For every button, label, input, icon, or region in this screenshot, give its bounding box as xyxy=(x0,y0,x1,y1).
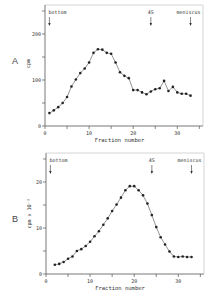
data-point xyxy=(75,78,78,81)
data-point xyxy=(154,88,157,91)
chart-panel-b: 010200102030Fraction numbercpm x 10⁻³Bbo… xyxy=(12,153,204,291)
y-axis-label: cpm xyxy=(25,59,32,68)
arrow-head-icon xyxy=(48,23,50,26)
data-point xyxy=(155,226,158,229)
data-point xyxy=(98,230,101,233)
data-point xyxy=(97,48,100,51)
data-point xyxy=(159,236,162,239)
data-point xyxy=(132,89,135,92)
data-point xyxy=(119,71,122,74)
data-point xyxy=(67,258,70,261)
data-line xyxy=(49,49,190,113)
data-point xyxy=(114,61,117,64)
data-point xyxy=(105,52,108,55)
data-point xyxy=(66,96,69,99)
figure: 01002000102030Fraction numbercpmAbottom4… xyxy=(0,0,208,296)
data-point xyxy=(168,250,171,253)
data-point xyxy=(61,102,64,105)
data-point xyxy=(186,256,189,259)
data-point xyxy=(88,61,91,64)
y-tick-label: 0 xyxy=(38,123,41,129)
data-point xyxy=(106,217,109,220)
marker-label: 4S xyxy=(148,9,154,15)
data-point xyxy=(141,91,144,94)
data-point xyxy=(164,243,167,246)
data-line xyxy=(55,186,192,265)
data-point xyxy=(185,93,188,96)
y-tick-label: 0 xyxy=(39,271,42,277)
data-point xyxy=(150,90,153,93)
panel-letter: A xyxy=(12,56,18,66)
data-point xyxy=(163,80,166,83)
data-point xyxy=(115,203,118,206)
data-point xyxy=(101,48,104,51)
x-tick-label: 30 xyxy=(175,278,181,284)
data-point xyxy=(172,86,175,89)
x-tick-label: 20 xyxy=(131,278,137,284)
data-point xyxy=(128,185,131,188)
data-point xyxy=(142,194,145,197)
data-point xyxy=(190,256,193,259)
data-point xyxy=(181,255,184,258)
data-point xyxy=(145,93,148,96)
arrow-head-icon xyxy=(151,171,153,174)
data-point xyxy=(123,75,126,78)
marker-label: bottom xyxy=(48,9,66,15)
marker-label: 4S xyxy=(149,157,155,163)
y-tick-label: 200 xyxy=(32,31,41,37)
data-point xyxy=(110,52,113,55)
marker-label: bottom xyxy=(49,157,67,163)
data-point xyxy=(133,185,136,188)
y-tick-label: 10 xyxy=(36,225,42,231)
data-point xyxy=(189,94,192,97)
data-point xyxy=(146,202,149,205)
data-point xyxy=(167,90,170,93)
data-point xyxy=(70,85,73,88)
data-point xyxy=(102,223,105,226)
data-point xyxy=(57,106,60,109)
data-point xyxy=(54,264,57,267)
y-tick-label: 20 xyxy=(36,179,42,185)
chart-panel-a: 01002000102030Fraction numbercpmAbottom4… xyxy=(12,5,203,143)
data-point xyxy=(151,214,154,217)
marker-label: meniscus xyxy=(176,9,200,15)
x-tick-label: 0 xyxy=(43,130,46,136)
data-point xyxy=(173,255,176,258)
data-point xyxy=(71,255,74,258)
data-point xyxy=(83,67,86,70)
data-point xyxy=(177,256,180,259)
data-point xyxy=(137,189,140,192)
data-point xyxy=(92,52,95,55)
y-axis-label: cpm x 10⁻³ xyxy=(26,198,33,228)
data-point xyxy=(84,245,87,248)
data-point xyxy=(79,72,82,75)
x-tick-label: 10 xyxy=(87,278,93,284)
x-axis-label: Fraction number xyxy=(95,285,145,291)
data-point xyxy=(180,93,183,96)
data-point xyxy=(111,210,114,213)
data-point xyxy=(53,109,56,112)
data-point xyxy=(136,89,139,92)
data-point xyxy=(120,196,123,199)
x-axis-label: Fraction number xyxy=(95,137,145,143)
data-point xyxy=(89,241,92,244)
data-point xyxy=(176,91,179,94)
data-point xyxy=(62,261,65,264)
x-tick-label: 10 xyxy=(86,130,92,136)
data-point xyxy=(76,250,79,253)
data-point xyxy=(158,87,161,90)
data-point xyxy=(127,77,130,80)
data-point xyxy=(48,112,51,115)
x-tick-label: 0 xyxy=(44,278,47,284)
y-tick-label: 100 xyxy=(32,77,41,83)
data-point xyxy=(124,189,127,192)
panel-letter: B xyxy=(12,214,18,224)
data-point xyxy=(93,235,96,238)
data-point xyxy=(58,263,61,266)
arrow-head-icon xyxy=(190,171,192,174)
arrow-head-icon xyxy=(150,23,152,26)
arrow-head-icon xyxy=(189,23,191,26)
data-point xyxy=(80,248,83,251)
x-tick-label: 20 xyxy=(130,130,136,136)
x-tick-label: 30 xyxy=(174,130,180,136)
